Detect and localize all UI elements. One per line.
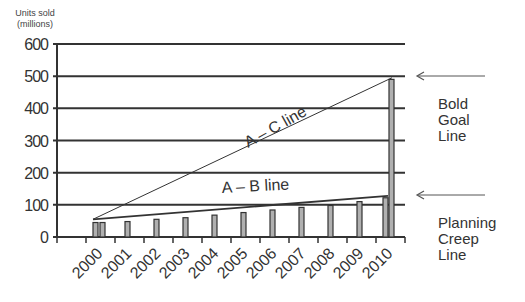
x-tick-label: 2010 bbox=[359, 244, 396, 281]
bar bbox=[383, 198, 388, 237]
bar bbox=[93, 223, 98, 237]
ac-line bbox=[93, 78, 392, 220]
y-tick-label: 0 bbox=[40, 229, 49, 246]
bold-goal-annotation: Bold Goal Line bbox=[438, 96, 470, 144]
bar-bold-goal bbox=[389, 79, 394, 237]
bar bbox=[212, 215, 217, 237]
bar bbox=[100, 223, 105, 237]
bar bbox=[125, 222, 130, 237]
x-tick-label: 2005 bbox=[214, 244, 251, 281]
x-tick-label: 2009 bbox=[330, 244, 367, 281]
planning-creep-annotation: Planning Creep Line bbox=[438, 215, 496, 263]
bar bbox=[328, 205, 333, 237]
bar bbox=[299, 207, 304, 237]
x-tick-label: 2000 bbox=[69, 244, 106, 281]
bar bbox=[357, 202, 362, 237]
x-tick-label: 2007 bbox=[272, 244, 309, 281]
x-tick-label: 2002 bbox=[127, 244, 164, 281]
ac-line-label: A – C line bbox=[241, 103, 309, 151]
y-tick-label: 500 bbox=[24, 68, 49, 85]
bar bbox=[270, 210, 275, 237]
y-tick-label: 400 bbox=[24, 100, 49, 117]
x-tick-label: 2003 bbox=[156, 244, 193, 281]
bar bbox=[183, 218, 188, 237]
bar bbox=[241, 213, 246, 237]
bar bbox=[154, 219, 159, 237]
ab-line-label: A – B line bbox=[221, 175, 290, 196]
x-tick-label: 2008 bbox=[301, 244, 338, 281]
y-tick-label: 200 bbox=[24, 165, 49, 182]
y-tick-label: 100 bbox=[24, 197, 49, 214]
x-tick-label: 2004 bbox=[185, 244, 222, 281]
x-tick-label: 2001 bbox=[98, 244, 135, 281]
y-tick-label: 600 bbox=[24, 36, 49, 53]
x-tick-label: 2006 bbox=[243, 244, 280, 281]
y-tick-label: 300 bbox=[24, 133, 49, 150]
